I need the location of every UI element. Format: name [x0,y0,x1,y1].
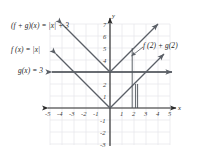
xtick--4: -4 [57,110,63,117]
label-f2-plus-g2: f (2) + g(2) [143,41,178,50]
label-g: g(x) = 3 [18,66,43,75]
xtick--3: -3 [69,110,75,117]
label-f-plus-g: (f + g)(x) = |x| + 3 [11,21,69,30]
ytick-2: 2 [103,81,106,88]
ytick-6: 6 [103,33,106,40]
label-f: f (x) = |x| [11,45,40,54]
ytick--3: -3 [100,141,106,148]
x-axis-label: x [178,104,181,111]
ytick-7: 7 [103,21,106,28]
xtick--5: -5 [45,110,51,117]
sum-measure-bars [132,48,137,108]
graph-figure: (f + g)(x) = |x| + 3 f (x) = |x| g(x) = … [0,0,200,153]
xtick-3: 3 [144,110,147,117]
xtick-1: 1 [120,110,123,117]
xtick-4: 4 [156,110,159,117]
xtick--2: -2 [81,110,87,117]
y-axis-label: y [112,12,115,19]
ytick-5: 5 [103,45,106,52]
ytick--2: -2 [100,129,106,136]
ytick-4: 4 [103,57,106,64]
ytick--1: -1 [100,117,106,124]
axes [48,18,176,146]
xtick-5: 5 [168,110,171,117]
ytick-1: 1 [103,93,106,100]
xtick--1: -1 [93,110,99,117]
xtick-2: 2 [132,110,135,117]
